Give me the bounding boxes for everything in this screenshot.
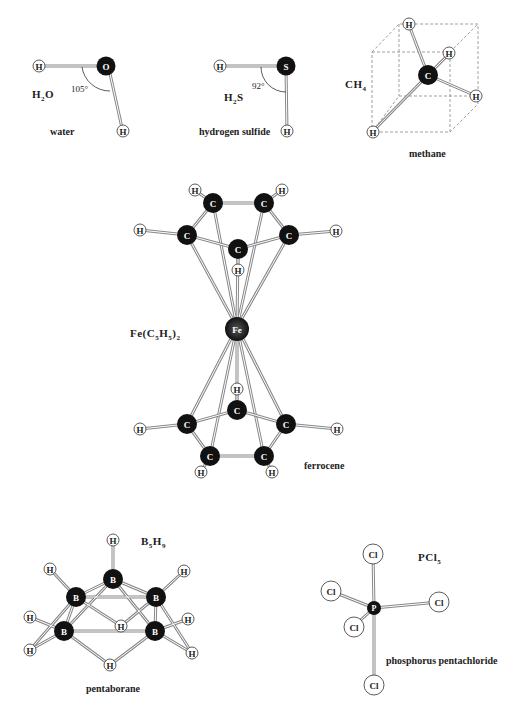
svg-text:H: H [216, 62, 223, 72]
svg-text:H: H [197, 468, 204, 478]
pentaborane-molecule: H H H H H H H H H B B B B B [24, 534, 198, 671]
water-bond-angle: 105° [71, 84, 88, 94]
svg-text:C: C [235, 245, 242, 255]
svg-text:C: C [286, 231, 293, 241]
svg-text:H: H [35, 62, 42, 72]
svg-text:H: H [445, 49, 452, 59]
water-label: water [50, 126, 74, 137]
svg-text:C: C [184, 231, 191, 241]
svg-text:Cl: Cl [435, 598, 444, 608]
svg-text:H: H [268, 468, 275, 478]
svg-text:H: H [109, 536, 116, 546]
svg-text:B: B [61, 627, 67, 637]
molecule-diagram: H O H H S H [0, 0, 513, 711]
pentaborane-label: pentaborane [86, 683, 140, 694]
methane-molecule: H H C H H [367, 18, 482, 138]
svg-text:H: H [46, 565, 53, 575]
svg-text:H: H [136, 226, 143, 236]
methane-label: methane [409, 148, 446, 159]
svg-text:H: H [136, 425, 143, 435]
svg-text:H: H [184, 615, 191, 625]
svg-text:B: B [153, 593, 159, 603]
svg-text:H: H [333, 425, 340, 435]
pcl5-formula: PCl5 [418, 551, 441, 566]
water-formula: H2O [32, 88, 54, 103]
svg-text:C: C [283, 420, 290, 430]
phosphorus-pentachloride-molecule: Cl Cl Cl Cl Cl P [321, 544, 449, 695]
svg-text:P: P [372, 604, 377, 613]
h2s-bond-angle: 92° [252, 81, 265, 91]
svg-text:Cl: Cl [370, 681, 379, 691]
svg-text:H: H [119, 127, 126, 137]
svg-text:B: B [73, 593, 79, 603]
svg-text:Cl: Cl [327, 587, 336, 597]
svg-text:H: H [278, 186, 285, 196]
pentaborane-formula: B5H9 [141, 535, 166, 550]
svg-text:H: H [234, 266, 241, 276]
svg-text:C: C [207, 452, 214, 462]
svg-text:H: H [369, 128, 376, 138]
pcl5-label: phosphorus pentachloride [386, 655, 497, 666]
svg-text:H: H [283, 127, 290, 137]
svg-text:Cl: Cl [369, 550, 378, 560]
svg-text:H: H [188, 649, 195, 659]
svg-text:H: H [26, 646, 33, 656]
h2s-formula: H2S [224, 91, 244, 106]
svg-text:H: H [405, 20, 412, 30]
svg-text:H: H [26, 613, 33, 623]
svg-text:H: H [472, 92, 479, 102]
svg-text:C: C [261, 199, 268, 209]
svg-text:C: C [234, 406, 241, 416]
ferrocene-label: ferrocene [304, 460, 344, 471]
svg-text:C: C [261, 452, 268, 462]
svg-text:H: H [191, 186, 198, 196]
svg-text:Fe: Fe [232, 325, 242, 335]
svg-text:H: H [180, 567, 187, 577]
svg-text:C: C [184, 420, 191, 430]
svg-text:Cl: Cl [350, 623, 359, 633]
h2s-label: hydrogen sulfide [199, 126, 270, 137]
svg-text:O: O [102, 62, 109, 72]
methane-formula: CH4 [345, 78, 367, 93]
svg-text:H: H [117, 622, 124, 632]
svg-text:H: H [332, 227, 339, 237]
svg-text:S: S [283, 62, 288, 72]
svg-text:C: C [210, 199, 217, 209]
svg-text:H: H [106, 661, 113, 671]
svg-text:C: C [425, 71, 432, 81]
svg-text:B: B [152, 627, 158, 637]
svg-text:H: H [233, 385, 240, 395]
svg-text:B: B [110, 575, 116, 585]
ferrocene-formula: Fe(C5H5)2 [130, 327, 180, 342]
